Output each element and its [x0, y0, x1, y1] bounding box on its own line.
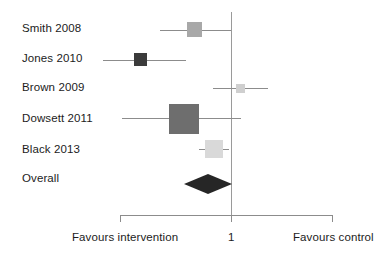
effect-marker-brown-2009 — [236, 84, 245, 93]
x-axis-line — [120, 215, 333, 216]
effect-marker-jones-2010 — [134, 53, 147, 66]
x-axis-tick-left — [120, 215, 121, 222]
study-label-dowsett-2011: Dowsett 2011 — [22, 112, 93, 124]
effect-marker-smith-2008 — [187, 22, 202, 37]
pooled-effect-diamond — [184, 174, 232, 194]
x-axis-tick-center — [231, 215, 232, 222]
axis-label-favours-intervention: Favours intervention — [72, 231, 178, 244]
study-label-jones-2010: Jones 2010 — [22, 52, 82, 64]
study-label-black-2013: Black 2013 — [22, 143, 80, 155]
effect-marker-black-2013 — [205, 140, 223, 158]
diamond-shape — [184, 174, 232, 194]
forest-plot: Smith 2008 Jones 2010 Brown 2009 Dowsett… — [0, 0, 389, 257]
study-label-overall: Overall — [22, 172, 59, 184]
study-label-brown-2009: Brown 2009 — [22, 81, 84, 93]
axis-label-favours-control: Favours control — [293, 231, 374, 244]
axis-label-null-value: 1 — [228, 231, 234, 244]
study-label-smith-2008: Smith 2008 — [22, 22, 81, 34]
effect-marker-dowsett-2011 — [169, 104, 199, 134]
x-axis-tick-right — [332, 215, 333, 222]
